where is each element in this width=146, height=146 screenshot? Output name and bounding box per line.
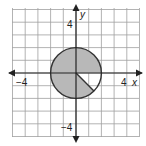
y-axis-arrow-up-icon: [73, 4, 80, 11]
coordinate-plane-figure: x y 4 −4 4 −4: [0, 0, 146, 146]
y-axis-label: y: [79, 9, 86, 20]
y-axis-arrow-down-icon: [73, 136, 80, 143]
x-tick-pos-label: 4: [121, 77, 127, 88]
x-axis-label: x: [131, 77, 138, 88]
y-tick-pos-label: 4: [67, 19, 73, 30]
x-tick-neg-label: −4: [16, 77, 28, 88]
x-axis-arrow-left-icon: [8, 70, 15, 77]
y-tick-neg-label: −4: [61, 122, 73, 133]
